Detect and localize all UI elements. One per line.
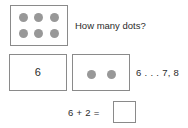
dot xyxy=(50,13,59,22)
dot-grid-six xyxy=(11,6,67,45)
question-prompt: How many dots? xyxy=(75,21,146,31)
numeral-box: 6 xyxy=(9,54,67,91)
dot-grid-two xyxy=(73,55,129,90)
dot xyxy=(107,70,116,79)
answer-input-box[interactable] xyxy=(113,101,136,123)
worksheet-canvas: How many dots? 6 6 . . . 7, 8 6 + 2 = xyxy=(0,0,188,128)
dot xyxy=(50,29,59,38)
dot-box-two xyxy=(72,54,130,91)
dot xyxy=(19,13,28,22)
equation-label: 6 + 2 = xyxy=(68,108,100,118)
dot xyxy=(34,29,43,38)
dot xyxy=(87,70,96,79)
numeral-value: 6 xyxy=(35,67,41,78)
dot xyxy=(19,29,28,38)
dot xyxy=(34,13,43,22)
dot-box-six xyxy=(10,5,68,46)
count-on-hint: 6 . . . 7, 8 xyxy=(136,68,179,78)
